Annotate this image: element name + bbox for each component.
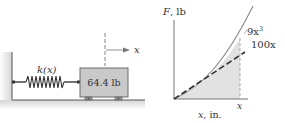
curve-label: 9x3: [247, 25, 263, 37]
wheel-left: [85, 97, 92, 100]
line-label-text: 100x: [251, 39, 276, 50]
curve-label-base: 9x: [247, 26, 259, 37]
displacement-label: x: [134, 44, 140, 55]
line-label: 100x: [251, 39, 276, 50]
wheel-right: [115, 97, 122, 100]
x-marker-label: x: [237, 101, 242, 111]
diagram-canvas: k(x) 64.4 lb x F: [0, 0, 285, 123]
arrowhead-icon: [123, 48, 130, 53]
spring-mass-system: k(x) 64.4 lb x: [0, 33, 145, 110]
wall-shading: [0, 52, 12, 100]
x-axis-unit: , in.: [203, 109, 221, 120]
y-axis-label: F, lb: [162, 6, 186, 17]
spring: [12, 76, 80, 88]
force-displacement-graph: F, lb 9x3 100x x x, in.: [162, 6, 276, 120]
spring-label: k(x): [37, 64, 57, 75]
y-axis-unit: , lb: [170, 6, 186, 17]
curve-label-exp: 3: [259, 25, 263, 33]
block-weight-label: 64.4 lb: [87, 77, 120, 88]
x-axis-label: x, in.: [198, 109, 222, 120]
ground-shading: [0, 100, 145, 110]
